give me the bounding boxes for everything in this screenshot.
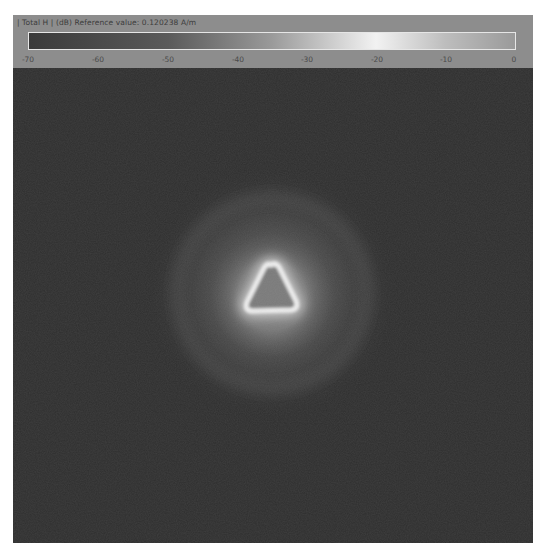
colorbar-tick: -20	[371, 55, 383, 64]
colorbar-tick: -60	[92, 55, 104, 64]
colorbar-tick: 0	[512, 55, 517, 64]
heatmap-graphic	[13, 68, 533, 543]
colorbar	[28, 32, 516, 50]
colorbar-tick: -10	[440, 55, 452, 64]
colorbar-header: | Total H | (dB) Reference value: 0.1202…	[13, 15, 533, 68]
colorbar-tick: -50	[162, 55, 174, 64]
colorbar-tick: -30	[301, 55, 313, 64]
field-heatmap	[13, 68, 533, 543]
colorbar-tick: -40	[232, 55, 244, 64]
field-plot-panel: | Total H | (dB) Reference value: 0.1202…	[13, 15, 533, 543]
plot-title: | Total H | (dB) Reference value: 0.1202…	[17, 18, 196, 27]
colorbar-tick: -70	[22, 55, 34, 64]
